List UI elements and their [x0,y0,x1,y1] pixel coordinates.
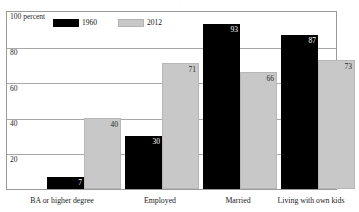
bar-1960-married[interactable]: 93 [203,24,240,189]
x-axis-labels: BA or higher degree Employed Married Liv… [6,196,337,208]
bars-layer: 7 40 30 71 93 66 87 [7,12,336,189]
bar-2012-living-with-own-kids[interactable]: 73 [318,60,355,189]
bar-2012-married[interactable]: 66 [240,72,277,189]
bar-group-ba-or-higher-degree: 7 40 [44,12,122,189]
bar-value-1960-married: 93 [231,26,239,34]
legend-swatch-2012-icon [118,19,144,27]
bar-group-married: 93 66 [200,12,278,189]
bar-value-2012-ba-or-higher-degree: 40 [111,121,119,129]
x-tick-label-living-with-own-kids: Living with own kids [249,196,359,206]
bar-2012-ba-or-higher-degree[interactable]: 40 [84,118,121,189]
bar-value-2012-employed: 71 [189,66,197,74]
bar-value-1960-ba-or-higher-degree: 7 [78,179,82,187]
legend-swatch-1960-icon [53,19,79,27]
bar-1960-ba-or-higher-degree[interactable]: 7 [47,177,84,189]
bar-value-1960-living-with-own-kids: 87 [309,37,317,45]
bar-value-2012-living-with-own-kids: 73 [345,63,353,71]
bar-1960-living-with-own-kids[interactable]: 87 [281,35,318,189]
legend-entry-1960[interactable]: 1960 [53,19,97,27]
bar-group-employed: 30 71 [122,12,200,189]
bar-group-living-with-own-kids: 87 73 [278,12,356,189]
bar-1960-employed[interactable]: 30 [125,136,162,189]
bar-2012-employed[interactable]: 71 [162,63,199,189]
chart-title-remnant: Characteristics of young adults, 1960 an… [40,0,310,1]
legend: 1960 2012 [53,19,162,27]
bar-value-1960-employed: 30 [153,138,161,146]
legend-label-2012: 2012 [147,19,162,27]
legend-entry-2012[interactable]: 2012 [118,19,162,27]
bar-value-2012-married: 66 [267,75,275,83]
legend-label-1960: 1960 [82,19,97,27]
